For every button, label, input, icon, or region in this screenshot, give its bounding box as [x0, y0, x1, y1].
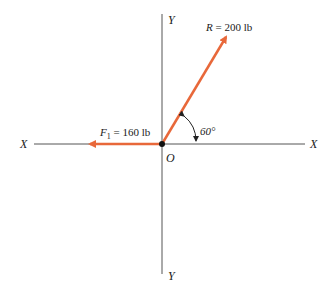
x-axis-right-label: X — [309, 137, 318, 151]
origin-point — [159, 141, 165, 147]
angle-arc — [184, 116, 196, 141]
force-diagram: X X Y Y O F1 = 160 lb R = 200 lb 60° — [0, 0, 335, 292]
y-axis-bottom-label: Y — [168, 269, 176, 283]
origin-label: O — [166, 151, 175, 165]
angle-label: 60° — [200, 125, 216, 137]
force-r-arrow — [162, 37, 226, 144]
y-axis-top-label: Y — [168, 13, 176, 27]
force-r-label: R = 200 lb — [205, 21, 253, 33]
force-f1-label: F1 = 160 lb — [99, 126, 151, 141]
x-axis-left-label: X — [19, 137, 28, 151]
